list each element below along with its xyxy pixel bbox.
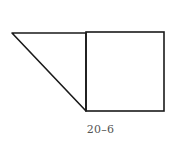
figure-caption: 20–6 [0,123,185,136]
right-triangle [12,33,86,111]
square [86,32,164,111]
